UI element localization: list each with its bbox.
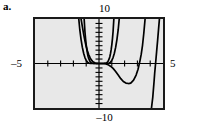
calculator-screen: [33, 17, 165, 110]
plot-svg: [35, 19, 163, 108]
y-min-label: –10: [6, 112, 197, 123]
figure-container: a.: [0, 0, 197, 130]
x-min-label: –5: [11, 58, 22, 69]
x-max-label: 5: [170, 58, 176, 69]
y-max-label: 10: [6, 3, 197, 14]
